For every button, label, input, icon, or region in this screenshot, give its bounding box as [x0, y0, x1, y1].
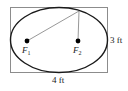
height-dimension-label: 3 ft: [110, 36, 122, 45]
focus-2-label-letter: F: [73, 45, 79, 55]
focus-point-1: [25, 39, 30, 44]
focus-2-label-subscript: 2: [79, 50, 82, 56]
focus-1-label-subscript: 1: [28, 50, 31, 56]
ray-focus-2-to-point: [78, 11, 79, 41]
focus-1-label: F1: [22, 46, 31, 55]
ellipse-figure: F1 F2 3 ft 4 ft: [0, 0, 128, 91]
focus-2-label: F2: [73, 46, 82, 55]
width-dimension-label: 4 ft: [52, 76, 64, 85]
ray-focus-1-to-point: [27, 11, 79, 41]
focus-1-label-letter: F: [22, 45, 28, 55]
focus-point-2: [76, 39, 81, 44]
